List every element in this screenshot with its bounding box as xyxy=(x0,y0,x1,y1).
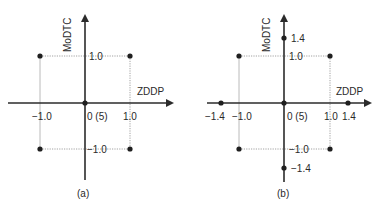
x-tick-label: 1.0 xyxy=(324,111,338,122)
design-point xyxy=(327,146,332,151)
design-point xyxy=(327,53,332,58)
x-tick-label: −1.4 xyxy=(205,111,225,122)
y-axis-label: MoDTC xyxy=(261,18,272,52)
y-tick-label: −1.4 xyxy=(291,163,311,174)
x-tick-label: −1.0 xyxy=(232,111,252,122)
center-label: 0 (5) xyxy=(287,111,308,122)
y-tick-label: 1.0 xyxy=(289,51,303,62)
y-tick-label: −1.0 xyxy=(289,144,309,155)
x-tick-label: −1.0 xyxy=(32,111,52,122)
x-axis-label: ZDDP xyxy=(336,86,364,97)
center-point xyxy=(281,100,286,105)
y-tick-label: −1.0 xyxy=(87,144,107,155)
axial-point xyxy=(218,100,223,105)
y-tick-label: 1.0 xyxy=(89,51,103,62)
design-point xyxy=(37,146,42,151)
design-diagram: MoDTC ZDDP 1.0 −1.0 −1.0 1.0 0 (5) (a) M… xyxy=(0,0,380,206)
center-point xyxy=(82,100,87,105)
design-point xyxy=(236,146,241,151)
design-point xyxy=(236,53,241,58)
axial-point xyxy=(281,35,286,40)
design-point xyxy=(127,53,132,58)
panel-caption: (a) xyxy=(77,188,89,199)
center-label: 0 (5) xyxy=(87,111,108,122)
x-tick-label: 1.0 xyxy=(123,111,137,122)
panel-b: MoDTC ZDDP 1.4 1.0 −1.0 −1.4 −1.4 −1.0 1… xyxy=(205,16,370,199)
panel-a: MoDTC ZDDP 1.0 −1.0 −1.0 1.0 0 (5) (a) xyxy=(8,16,172,199)
design-point xyxy=(127,146,132,151)
x-axis-label: ZDDP xyxy=(137,86,165,97)
axial-point xyxy=(281,165,286,170)
design-point xyxy=(37,53,42,58)
x-tick-label: 1.4 xyxy=(342,111,356,122)
panel-caption: (b) xyxy=(277,188,289,199)
axial-point xyxy=(345,100,350,105)
y-tick-label: 1.4 xyxy=(291,33,305,44)
y-axis-label: MoDTC xyxy=(62,18,73,52)
